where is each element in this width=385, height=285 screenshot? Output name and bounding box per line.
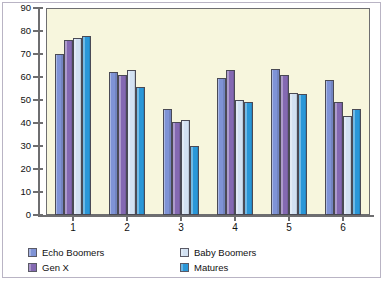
- bar-highlight: [236, 101, 238, 214]
- bar-echo-boomers-4: [217, 78, 226, 215]
- bar-shadow: [296, 94, 297, 214]
- bar-shadow: [169, 110, 170, 214]
- legend-swatch-highlight: [181, 249, 183, 256]
- bar-shadow: [188, 121, 189, 214]
- bar-shadow: [134, 71, 135, 214]
- bar-highlight: [299, 95, 301, 214]
- y-axis-tick: [33, 214, 43, 216]
- bar-highlight: [227, 71, 229, 214]
- y-axis-label: 10: [4, 187, 31, 197]
- bar-baby-boomers-4: [235, 100, 244, 215]
- bar-matures-6: [352, 109, 361, 215]
- x-axis-label: 1: [63, 223, 83, 233]
- bar-highlight: [281, 76, 283, 214]
- bar-highlight: [110, 73, 112, 214]
- y-axis-label: 20: [4, 164, 31, 174]
- bar-gen-x-2: [118, 75, 127, 215]
- y-axis-label: 50: [4, 95, 31, 105]
- y-axis-tick: [33, 122, 43, 124]
- bar-highlight: [245, 103, 247, 214]
- legend-item-matures[interactable]: Matures: [180, 263, 228, 273]
- bar-shadow: [251, 103, 252, 214]
- bar-gen-x-1: [64, 40, 73, 215]
- bar-shadow: [341, 103, 342, 214]
- bar-baby-boomers-6: [343, 116, 352, 215]
- bar-shadow: [80, 39, 81, 214]
- legend-swatch-icon: [28, 248, 37, 257]
- bar-gen-x-3: [172, 122, 181, 215]
- legend-label: Matures: [194, 263, 228, 273]
- y-axis-label: 70: [4, 49, 31, 59]
- bar-gen-x-4: [226, 70, 235, 215]
- bar-echo-boomers-3: [163, 109, 172, 215]
- bar-highlight: [119, 76, 121, 214]
- legend-label: Baby Boomers: [194, 248, 256, 258]
- x-axis-tick: [72, 215, 74, 221]
- bar-gen-x-5: [280, 75, 289, 215]
- legend-label: Echo Boomers: [42, 248, 104, 258]
- y-axis-label: 80: [4, 26, 31, 36]
- bar-highlight: [137, 88, 139, 214]
- chart-legend: Echo BoomersGen XBaby BoomersMatures: [28, 248, 328, 278]
- legend-swatch-icon: [180, 248, 189, 257]
- x-axis-tick: [180, 215, 182, 221]
- x-axis-tick: [342, 215, 344, 221]
- bar-shadow: [89, 37, 90, 214]
- bar-echo-boomers-6: [325, 80, 334, 215]
- legend-item-echo-boomers[interactable]: Echo Boomers: [28, 248, 104, 258]
- y-axis-line: [38, 8, 40, 216]
- legend-item-baby-boomers[interactable]: Baby Boomers: [180, 248, 256, 258]
- bar-baby-boomers-5: [289, 93, 298, 215]
- bar-shadow: [61, 55, 62, 214]
- bar-highlight: [272, 70, 274, 214]
- x-axis-tick: [288, 215, 290, 221]
- y-axis-tick: [33, 7, 43, 9]
- bar-shadow: [179, 123, 180, 214]
- bar-shadow: [223, 79, 224, 214]
- bar-shadow: [233, 71, 234, 214]
- chart-screenshot: 0102030405060708090 123456 Echo BoomersG…: [0, 0, 385, 285]
- bar-shadow: [277, 70, 278, 214]
- bar-baby-boomers-3: [181, 120, 190, 215]
- bar-shadow: [115, 73, 116, 214]
- bar-baby-boomers-1: [73, 38, 82, 215]
- bar-shadow: [331, 81, 332, 214]
- y-axis-label: 90: [4, 3, 31, 13]
- x-axis-label: 2: [117, 223, 137, 233]
- bars-layer: [46, 8, 370, 215]
- bar-shadow: [287, 76, 288, 214]
- y-axis-tick: [33, 76, 43, 78]
- x-axis-label: 3: [171, 223, 191, 233]
- x-axis-tick: [234, 215, 236, 221]
- bar-highlight: [191, 147, 193, 214]
- bar-echo-boomers-2: [109, 72, 118, 215]
- y-axis-label: 60: [4, 72, 31, 82]
- legend-item-gen-x[interactable]: Gen X: [28, 263, 69, 273]
- legend-swatch-icon: [28, 263, 37, 272]
- y-axis-tick: [33, 99, 43, 101]
- legend-swatch-highlight: [29, 249, 31, 256]
- x-axis-label: 4: [225, 223, 245, 233]
- bar-matures-2: [136, 87, 145, 215]
- bar-echo-boomers-5: [271, 69, 280, 215]
- bar-matures-5: [298, 94, 307, 215]
- y-axis-tick: [33, 53, 43, 55]
- legend-swatch-icon: [180, 263, 189, 272]
- x-axis-tick: [126, 215, 128, 221]
- bar-highlight: [74, 39, 76, 214]
- bar-highlight: [218, 79, 220, 214]
- bar-shadow: [125, 76, 126, 214]
- legend-swatch-highlight: [29, 264, 31, 271]
- y-axis-label: 0: [4, 210, 31, 220]
- bar-highlight: [182, 121, 184, 214]
- bar-highlight: [335, 103, 337, 214]
- bar-highlight: [344, 117, 346, 214]
- x-axis-label: 5: [279, 223, 299, 233]
- bar-highlight: [173, 123, 175, 214]
- bar-highlight: [164, 110, 166, 214]
- bar-echo-boomers-1: [55, 54, 64, 215]
- bar-matures-3: [190, 146, 199, 215]
- bar-matures-1: [82, 36, 91, 215]
- bar-highlight: [56, 55, 58, 214]
- bar-shadow: [143, 88, 144, 214]
